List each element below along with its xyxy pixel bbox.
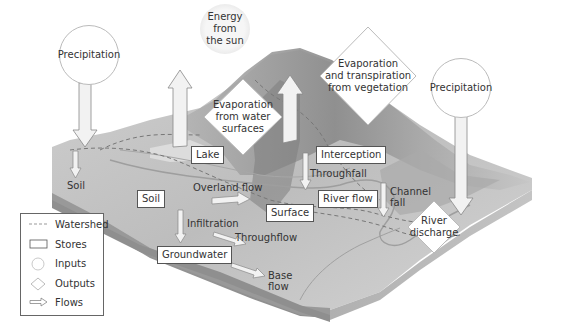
store-lake: Lake: [191, 146, 224, 164]
legend-item-outputs: Outputs: [29, 277, 95, 289]
evap-water-label: Evaporation from water surfaces: [213, 99, 273, 135]
diamond-icon: [29, 277, 49, 289]
output-evaporation-water-surfaces: Evaporation from water surfaces: [203, 78, 283, 156]
flow-label-channel-fall: Channel fall: [390, 186, 431, 208]
store-river-flow: River flow: [318, 190, 378, 208]
river-discharge-label: River discharge: [410, 215, 459, 239]
output-river-discharge: River discharge: [407, 200, 461, 254]
input-energy-from-sun: Energy from the sun: [200, 4, 250, 54]
legend-item-watershed: Watershed: [29, 218, 109, 230]
legend-item-flows: Flows: [29, 296, 83, 308]
input-precipitation-left: Precipitation: [59, 25, 119, 85]
legend-item-stores: Stores: [29, 238, 87, 250]
flow-label-base-flow: Base flow: [268, 270, 292, 292]
circle-icon: [29, 257, 49, 269]
legend-item-inputs: Inputs: [29, 257, 86, 269]
input-precipitation-right: Precipitation: [431, 58, 491, 118]
precipitation-left-label: Precipitation: [58, 49, 121, 61]
flow-label-infiltration: Infiltration: [187, 218, 239, 229]
rectangle-icon: [29, 238, 49, 250]
store-soil: Soil: [137, 190, 165, 208]
energy-sun-label: Energy from the sun: [206, 11, 243, 47]
store-surface: Surface: [266, 204, 314, 222]
flow-label-throughfall: Throughfall: [310, 168, 367, 179]
output-evaporation-transpiration-vegetation: Evaporation and transpiration from veget…: [319, 26, 417, 126]
dashed-line-icon: [29, 218, 49, 230]
flow-label-overland-flow: Overland flow: [193, 182, 262, 193]
store-interception: Interception: [316, 146, 386, 164]
hydrological-cycle-diagram: Precipitation Energy from the sun Precip…: [0, 0, 570, 335]
arrow-icon: [29, 296, 49, 308]
evap-veg-label: Evaporation and transpiration from veget…: [325, 58, 411, 94]
flow-label-throughflow: Throughflow: [235, 232, 297, 243]
flow-label-soil: Soil: [67, 180, 85, 191]
legend: Watershed Stores Inputs Outputs Flows: [20, 213, 104, 316]
store-groundwater: Groundwater: [157, 246, 232, 264]
precipitation-right-label: Precipitation: [430, 82, 493, 94]
